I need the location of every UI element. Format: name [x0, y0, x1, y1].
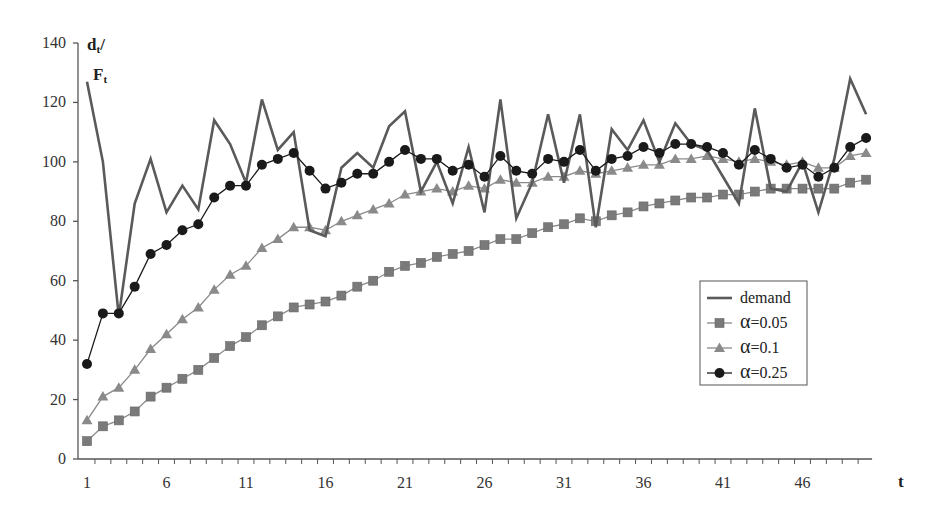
x-axis: 161116212631364146 — [78, 459, 872, 491]
svg-text:α=0.05: α=0.05 — [740, 310, 788, 332]
x-tick-label: 46 — [795, 474, 811, 491]
y-tick-label: 80 — [50, 212, 66, 229]
y-axis: 020406080100120140 — [42, 34, 78, 467]
x-tick-label: 36 — [636, 474, 652, 491]
svg-text:α=0.25: α=0.25 — [740, 360, 788, 382]
x-tick-label: 16 — [318, 474, 334, 491]
y-tick-label: 40 — [50, 331, 66, 348]
y-tick-label: 100 — [42, 153, 66, 170]
y-axis-title: dt/ Ft — [87, 35, 107, 85]
y-tick-label: 120 — [42, 93, 66, 110]
legend: demandα=0.05α=0.1α=0.25 — [700, 281, 807, 385]
x-tick-label: 26 — [477, 474, 493, 491]
x-tick-label: 31 — [556, 474, 572, 491]
y-tick-label: 140 — [42, 34, 66, 51]
x-axis-title: t — [898, 472, 904, 491]
x-tick-label: 1 — [83, 474, 91, 491]
x-tick-label: 11 — [238, 474, 253, 491]
svg-text:α=0.1: α=0.1 — [740, 335, 780, 357]
x-tick-label: 21 — [397, 474, 413, 491]
svg-text:dt/: dt/ — [87, 35, 105, 55]
svg-text:demand: demand — [740, 289, 791, 306]
x-tick-label: 41 — [715, 474, 731, 491]
y-tick-label: 0 — [58, 450, 66, 467]
svg-text:Ft: Ft — [93, 65, 107, 85]
x-tick-label: 6 — [163, 474, 171, 491]
y-tick-label: 60 — [50, 272, 66, 289]
exponential-smoothing-chart: 020406080100120140 161116212631364146 dt… — [0, 0, 942, 517]
y-tick-label: 20 — [50, 391, 66, 408]
plot-area — [82, 79, 872, 446]
